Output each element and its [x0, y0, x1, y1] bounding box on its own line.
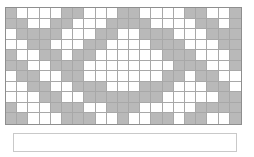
pattern-cell[interactable] — [230, 92, 241, 103]
pattern-cell[interactable] — [140, 113, 151, 124]
pattern-cell[interactable] — [62, 92, 73, 103]
pattern-cell[interactable] — [196, 8, 207, 19]
pattern-cell[interactable] — [6, 113, 17, 124]
pattern-cell[interactable] — [84, 40, 95, 51]
pattern-cell[interactable] — [207, 40, 218, 51]
pattern-cell[interactable] — [118, 50, 129, 61]
pattern-cell[interactable] — [219, 19, 230, 30]
pattern-cell[interactable] — [163, 113, 174, 124]
pattern-cell[interactable] — [196, 29, 207, 40]
pattern-cell[interactable] — [151, 61, 162, 72]
pattern-cell[interactable] — [96, 113, 107, 124]
pattern-cell[interactable] — [118, 61, 129, 72]
pattern-cell[interactable] — [107, 61, 118, 72]
pattern-cell[interactable] — [62, 103, 73, 114]
pattern-cell[interactable] — [230, 103, 241, 114]
pattern-cell[interactable] — [129, 40, 140, 51]
pattern-cell[interactable] — [219, 71, 230, 82]
pattern-cell[interactable] — [17, 29, 28, 40]
pattern-cell[interactable] — [73, 61, 84, 72]
pattern-cell[interactable] — [51, 29, 62, 40]
pattern-cell[interactable] — [96, 50, 107, 61]
pattern-cell[interactable] — [140, 19, 151, 30]
pattern-cell[interactable] — [129, 82, 140, 93]
pattern-cell[interactable] — [6, 71, 17, 82]
pattern-cell[interactable] — [107, 29, 118, 40]
pattern-cell[interactable] — [185, 19, 196, 30]
pattern-cell[interactable] — [62, 61, 73, 72]
pattern-cell[interactable] — [185, 92, 196, 103]
pattern-cell[interactable] — [174, 50, 185, 61]
pattern-cell[interactable] — [207, 92, 218, 103]
pattern-cell[interactable] — [196, 71, 207, 82]
pattern-cell[interactable] — [230, 19, 241, 30]
pattern-cell[interactable] — [185, 113, 196, 124]
pattern-cell[interactable] — [174, 113, 185, 124]
pattern-cell[interactable] — [40, 40, 51, 51]
pattern-cell[interactable] — [140, 29, 151, 40]
pattern-cell[interactable] — [140, 103, 151, 114]
pattern-cell[interactable] — [96, 71, 107, 82]
pattern-cell[interactable] — [40, 113, 51, 124]
pattern-cell[interactable] — [196, 50, 207, 61]
pattern-cell[interactable] — [40, 50, 51, 61]
pattern-cell[interactable] — [40, 8, 51, 19]
pattern-cell[interactable] — [40, 29, 51, 40]
pattern-cell[interactable] — [96, 61, 107, 72]
pattern-cell[interactable] — [118, 8, 129, 19]
pattern-cell[interactable] — [62, 19, 73, 30]
pattern-cell[interactable] — [73, 92, 84, 103]
pattern-cell[interactable] — [185, 50, 196, 61]
pattern-cell[interactable] — [151, 19, 162, 30]
pattern-cell[interactable] — [6, 8, 17, 19]
pattern-cell[interactable] — [51, 50, 62, 61]
pattern-cell[interactable] — [163, 61, 174, 72]
pattern-cell[interactable] — [129, 103, 140, 114]
pattern-cell[interactable] — [73, 40, 84, 51]
pattern-cell[interactable] — [129, 113, 140, 124]
pattern-cell[interactable] — [196, 113, 207, 124]
pattern-cell[interactable] — [151, 103, 162, 114]
pattern-cell[interactable] — [129, 71, 140, 82]
pattern-cell[interactable] — [163, 92, 174, 103]
pattern-cell[interactable] — [118, 40, 129, 51]
pattern-cell[interactable] — [96, 8, 107, 19]
pattern-cell[interactable] — [140, 61, 151, 72]
pattern-cell[interactable] — [118, 92, 129, 103]
pattern-cell[interactable] — [51, 113, 62, 124]
pattern-cell[interactable] — [28, 40, 39, 51]
pattern-cell[interactable] — [207, 82, 218, 93]
pattern-cell[interactable] — [185, 103, 196, 114]
pattern-cell[interactable] — [230, 8, 241, 19]
pattern-cell[interactable] — [6, 40, 17, 51]
pattern-cell[interactable] — [73, 50, 84, 61]
pattern-cell[interactable] — [6, 29, 17, 40]
pattern-cell[interactable] — [28, 8, 39, 19]
pattern-cell[interactable] — [207, 29, 218, 40]
pattern-cell[interactable] — [163, 40, 174, 51]
pattern-cell[interactable] — [230, 29, 241, 40]
pattern-cell[interactable] — [185, 8, 196, 19]
pattern-cell[interactable] — [51, 71, 62, 82]
pattern-cell[interactable] — [129, 61, 140, 72]
pattern-cell[interactable] — [62, 82, 73, 93]
pattern-cell[interactable] — [163, 82, 174, 93]
pattern-cell[interactable] — [84, 103, 95, 114]
pattern-cell[interactable] — [107, 71, 118, 82]
pattern-cell[interactable] — [96, 29, 107, 40]
pattern-cell[interactable] — [163, 19, 174, 30]
pattern-cell[interactable] — [174, 8, 185, 19]
pattern-cell[interactable] — [219, 82, 230, 93]
pattern-cell[interactable] — [28, 19, 39, 30]
pattern-cell[interactable] — [219, 50, 230, 61]
pattern-cell[interactable] — [96, 103, 107, 114]
pattern-cell[interactable] — [129, 50, 140, 61]
pattern-cell[interactable] — [140, 40, 151, 51]
pattern-cell[interactable] — [73, 71, 84, 82]
pattern-cell[interactable] — [51, 40, 62, 51]
pattern-cell[interactable] — [219, 92, 230, 103]
pattern-cell[interactable] — [84, 82, 95, 93]
pattern-cell[interactable] — [230, 50, 241, 61]
pattern-cell[interactable] — [185, 71, 196, 82]
pattern-cell[interactable] — [107, 113, 118, 124]
